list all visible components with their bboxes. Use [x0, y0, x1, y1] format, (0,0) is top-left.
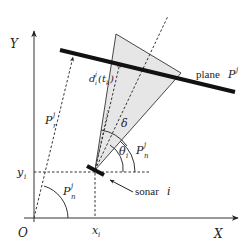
- pr-label: P: [44, 114, 53, 127]
- delta-label: δ: [121, 117, 128, 130]
- yi-label: y: [16, 166, 24, 179]
- x-axis-label: X: [213, 227, 223, 241]
- theta-label: θ: [119, 145, 126, 158]
- theta-label-sub: i: [126, 152, 128, 160]
- sonar-pointer-arrow: [110, 180, 133, 192]
- sonar-label: sonar: [135, 185, 159, 197]
- yi-label-sub: i: [24, 173, 26, 181]
- y-axis-label: Y: [10, 37, 19, 51]
- plane-label: plane: [196, 68, 220, 80]
- origin-label: O: [18, 226, 28, 240]
- sonar-plane-diagram: Y X O y i x i P j r P j n P j n θ i δ d …: [0, 0, 251, 247]
- pn-label-sonar: P: [135, 144, 144, 157]
- distance-label-arg-close: ): [109, 73, 114, 84]
- xi-label-sub: i: [98, 231, 100, 239]
- pn-label-origin-sub: n: [71, 193, 76, 201]
- sonar-index-label: i: [167, 185, 171, 198]
- pn-label-origin: P: [62, 185, 71, 198]
- distance-label-sub: i: [95, 79, 97, 86]
- plane-symbol: P: [227, 68, 236, 81]
- pn-label-sonar-sub: n: [144, 152, 149, 160]
